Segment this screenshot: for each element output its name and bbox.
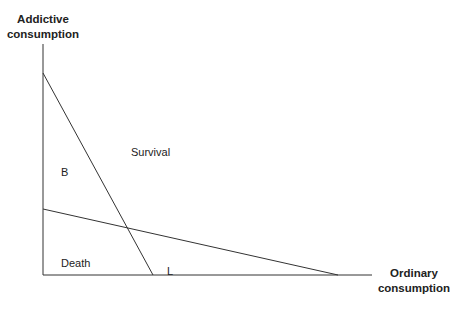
y-axis-title-line2: consumption	[0, 27, 86, 42]
x-axis-title-line1: Ordinary	[375, 266, 453, 281]
region-label-survival: Survival	[131, 146, 170, 158]
x-axis-title: Ordinary consumption	[375, 266, 453, 296]
region-label-death: Death	[61, 257, 90, 269]
y-axis-title-line1: Addictive	[0, 12, 86, 27]
region-label-l: L	[167, 265, 173, 277]
region-label-b: B	[61, 166, 68, 178]
y-axis-title: Addictive consumption	[0, 12, 86, 42]
x-axis-title-line2: consumption	[375, 281, 453, 296]
steep-boundary-line	[43, 73, 153, 275]
